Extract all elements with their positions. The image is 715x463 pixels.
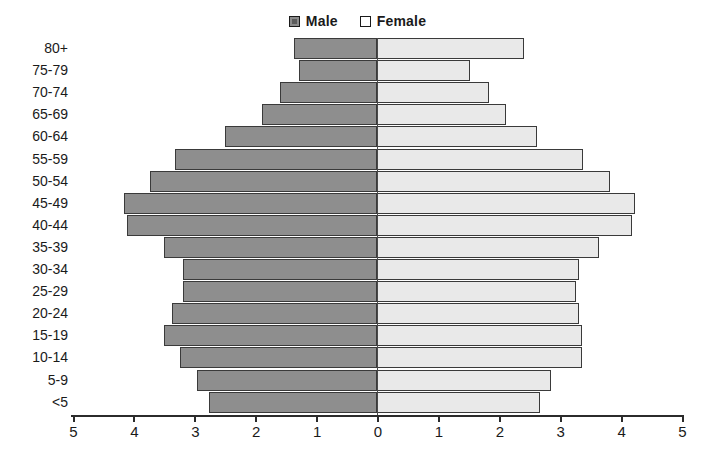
x-axis-tick bbox=[377, 415, 379, 422]
x-axis-tick-label: 5 bbox=[663, 424, 703, 439]
bar-male bbox=[180, 347, 377, 368]
age-group-label: 35-39 bbox=[32, 240, 68, 254]
zero-axis-line bbox=[377, 38, 378, 415]
bar-male bbox=[175, 149, 377, 170]
x-axis-tick bbox=[194, 415, 196, 422]
age-group-label: 25-29 bbox=[32, 284, 68, 298]
pyramid-row: 35-39 bbox=[0, 237, 715, 259]
bar-male bbox=[172, 303, 377, 324]
x-axis-tick-label: 3 bbox=[541, 424, 581, 439]
pyramid-row: 45-49 bbox=[0, 193, 715, 215]
pyramid-row: 25-29 bbox=[0, 281, 715, 303]
x-axis-tick-label: 0 bbox=[358, 424, 398, 439]
pyramid-row: 70-74 bbox=[0, 82, 715, 104]
pyramid-row: 65-69 bbox=[0, 104, 715, 126]
legend-entry-male: Male bbox=[289, 14, 338, 28]
x-axis-tick-label: 2 bbox=[480, 424, 520, 439]
bar-male bbox=[164, 325, 377, 346]
bar-male bbox=[183, 281, 377, 302]
x-axis-tick-label: 1 bbox=[297, 424, 337, 439]
bar-female bbox=[377, 193, 635, 214]
legend-entry-female: Female bbox=[360, 14, 426, 28]
pyramid-row: 40-44 bbox=[0, 215, 715, 237]
age-group-label: 15-19 bbox=[32, 328, 68, 342]
pyramid-row: 55-59 bbox=[0, 149, 715, 171]
bar-male bbox=[262, 104, 377, 125]
square-swatch-male-icon bbox=[289, 16, 300, 27]
legend-label-female: Female bbox=[377, 14, 426, 28]
age-group-label: 75-79 bbox=[32, 63, 68, 77]
bar-female bbox=[377, 215, 632, 236]
bar-male bbox=[209, 392, 377, 413]
bar-female bbox=[377, 325, 582, 346]
bar-male bbox=[164, 237, 377, 258]
age-group-label: 50-54 bbox=[32, 174, 68, 188]
pyramid-row: 10-14 bbox=[0, 347, 715, 369]
bar-male bbox=[294, 38, 377, 59]
bar-female bbox=[377, 392, 540, 413]
x-axis-tick-label: 2 bbox=[236, 424, 276, 439]
x-axis-tick bbox=[316, 415, 318, 422]
x-axis-tick-label: 5 bbox=[54, 424, 94, 439]
pyramid-row: 20-24 bbox=[0, 303, 715, 325]
x-axis-tick bbox=[682, 415, 684, 422]
bar-female bbox=[377, 259, 579, 280]
chart-legend: Male Female bbox=[0, 14, 715, 28]
x-axis-tick bbox=[499, 415, 501, 422]
bar-male bbox=[197, 370, 377, 391]
x-axis-tick bbox=[255, 415, 257, 422]
bar-female bbox=[377, 60, 470, 81]
pyramid-row: 80+ bbox=[0, 38, 715, 60]
x-axis-tick-label: 1 bbox=[419, 424, 459, 439]
pyramid-row: 5-9 bbox=[0, 370, 715, 392]
bar-female bbox=[377, 149, 583, 170]
age-group-label: 20-24 bbox=[32, 306, 68, 320]
bar-male bbox=[280, 82, 377, 103]
x-axis-tick bbox=[438, 415, 440, 422]
bar-male bbox=[127, 215, 377, 236]
pyramid-row: 60-64 bbox=[0, 126, 715, 148]
bar-female bbox=[377, 104, 506, 125]
age-group-label: <5 bbox=[52, 395, 68, 409]
x-axis-tick bbox=[133, 415, 135, 422]
age-group-label: 55-59 bbox=[32, 152, 68, 166]
bar-female bbox=[377, 303, 579, 324]
pyramid-row: 75-79 bbox=[0, 60, 715, 82]
bar-male bbox=[150, 171, 377, 192]
age-group-label: 5-9 bbox=[48, 373, 68, 387]
bar-female bbox=[377, 370, 551, 391]
pyramid-row: <5 bbox=[0, 392, 715, 414]
age-group-label: 60-64 bbox=[32, 129, 68, 143]
pyramid-row: 15-19 bbox=[0, 325, 715, 347]
x-axis-tick bbox=[73, 415, 75, 422]
bar-female bbox=[377, 281, 576, 302]
bar-male bbox=[183, 259, 377, 280]
bar-female bbox=[377, 82, 489, 103]
x-axis-tick-label: 4 bbox=[114, 424, 154, 439]
bar-female bbox=[377, 237, 599, 258]
age-group-label: 80+ bbox=[44, 41, 68, 55]
bar-male bbox=[124, 193, 377, 214]
bar-female bbox=[377, 38, 524, 59]
legend-label-male: Male bbox=[306, 14, 338, 28]
population-pyramid-chart: Male Female 80+75-7970-7465-6960-6455-59… bbox=[0, 0, 715, 463]
pyramid-row: 50-54 bbox=[0, 171, 715, 193]
bar-female bbox=[377, 126, 537, 147]
x-axis-tick-label: 3 bbox=[175, 424, 215, 439]
age-group-label: 10-14 bbox=[32, 350, 68, 364]
age-group-label: 30-34 bbox=[32, 262, 68, 276]
bar-female bbox=[377, 347, 582, 368]
age-group-label: 65-69 bbox=[32, 107, 68, 121]
age-group-label: 70-74 bbox=[32, 85, 68, 99]
x-axis-tick bbox=[621, 415, 623, 422]
square-swatch-female-icon bbox=[360, 16, 371, 27]
plot-area: 80+75-7970-7465-6960-6455-5950-5445-4940… bbox=[0, 38, 715, 415]
x-axis-tick bbox=[560, 415, 562, 422]
bar-female bbox=[377, 171, 610, 192]
bar-male bbox=[299, 60, 377, 81]
pyramid-row: 30-34 bbox=[0, 259, 715, 281]
age-group-label: 45-49 bbox=[32, 196, 68, 210]
x-axis-tick-label: 4 bbox=[602, 424, 642, 439]
age-group-label: 40-44 bbox=[32, 218, 68, 232]
bar-male bbox=[225, 126, 377, 147]
